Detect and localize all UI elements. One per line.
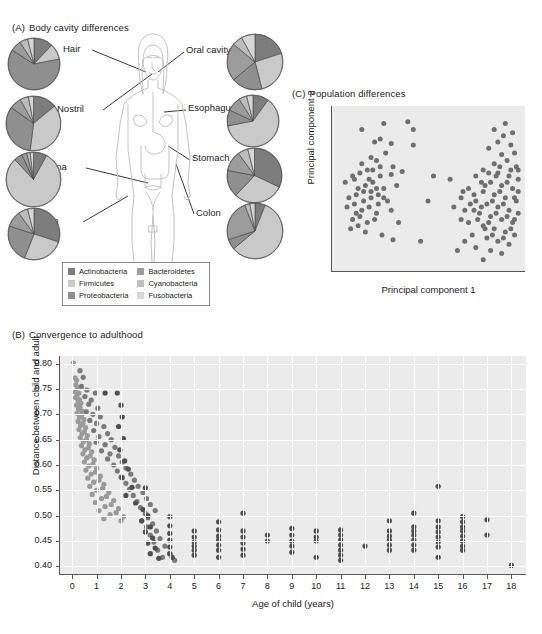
legend-label-fusobacteria: Fusobacteria — [148, 290, 192, 301]
x-axis-tick-label: 12 — [356, 581, 374, 591]
x-axis-tick-label: 16 — [454, 581, 472, 591]
x-axis-tick — [145, 575, 146, 579]
legend-swatch-cyanobacteria — [137, 280, 144, 287]
x-axis-tick — [438, 575, 439, 579]
x-axis-tick — [292, 575, 293, 579]
x-axis-tick — [463, 575, 464, 579]
pie-chart-hair — [8, 38, 60, 90]
panel-b-title-text: Convergence to adulthood — [29, 329, 143, 340]
x-axis-tick — [365, 575, 366, 579]
grid-line-horizontal — [60, 389, 526, 390]
panel-c-y-axis — [331, 106, 332, 272]
x-axis-tick-label: 18 — [502, 581, 520, 591]
x-axis-tick — [414, 575, 415, 579]
legend-label-proteobacteria: Proteobacteria — [79, 290, 128, 301]
x-axis-tick — [121, 575, 122, 579]
panel-a-body-cavity: (A)Body cavity differences — [0, 0, 300, 320]
x-axis-tick-label: 7 — [234, 581, 252, 591]
pie-chart-colon — [227, 203, 283, 259]
x-axis-tick-label: 17 — [478, 581, 496, 591]
legend-item-actinobacteria: Actinobacteria — [68, 266, 128, 277]
legend-swatch-actinobacteria — [68, 268, 75, 275]
panel-c-plot-area — [332, 106, 525, 271]
x-axis-tick-label: 0 — [63, 581, 81, 591]
x-axis-tick-label: 2 — [112, 581, 130, 591]
site-label-hair: Hair — [63, 43, 80, 54]
y-axis-tick — [56, 414, 60, 415]
site-label-colon: Colon — [196, 207, 221, 218]
x-axis-tick — [511, 575, 512, 579]
y-axis-tick-label: 0.45 — [26, 535, 52, 545]
legend-swatch-bacteroidetes — [137, 268, 144, 275]
grid-line-horizontal — [60, 364, 526, 365]
site-label-stomach: Stomach — [192, 152, 230, 163]
x-axis-tick — [72, 575, 73, 579]
legend-column-right: Bacteroidetes Cyanobacteria Fusobacteria — [137, 266, 197, 301]
x-axis-tick-label: 1 — [88, 581, 106, 591]
site-label-nostril: Nostril — [57, 103, 84, 114]
legend-item-firmicutes: Firmicutes — [68, 278, 128, 289]
legend-swatch-fusobacteria — [137, 292, 144, 299]
pie-chart-nostril — [6, 96, 61, 151]
site-label-oral-cavity: Oral cavity — [186, 44, 231, 55]
legend-label-firmicutes: Firmicutes — [79, 278, 114, 289]
legend-label-actinobacteria: Actinobacteria — [79, 266, 127, 277]
pie-chart-esophagus — [227, 95, 279, 147]
y-axis-tick — [56, 566, 60, 567]
legend-item-proteobacteria: Proteobacteria — [68, 290, 128, 301]
panel-c-tag: (C) — [292, 88, 306, 99]
y-axis-tick — [56, 541, 60, 542]
legend-column-left: Actinobacteria Firmicutes Proteobacteria — [68, 266, 128, 301]
grid-line-horizontal — [60, 541, 526, 542]
pie-chart-skin — [8, 208, 60, 260]
x-axis-tick-label: 3 — [136, 581, 154, 591]
legend-swatch-firmicutes — [68, 280, 75, 287]
x-axis-tick — [316, 575, 317, 579]
grid-line-horizontal — [60, 566, 526, 567]
y-axis-tick — [56, 389, 60, 390]
legend-label-cyanobacteria: Cyanobacteria — [148, 278, 197, 289]
legend-item-fusobacteria: Fusobacteria — [137, 290, 197, 301]
x-axis-tick-label: 14 — [405, 581, 423, 591]
y-axis-tick — [56, 516, 60, 517]
y-axis-tick — [56, 465, 60, 466]
panel-b-convergence: (B)Convergence to adulthood 0.400.450.50… — [0, 320, 542, 634]
panel-c-y-axis-label: Principal component 2 — [305, 68, 316, 208]
x-axis-tick — [341, 575, 342, 579]
pie-chart-vagina — [6, 152, 61, 207]
panel-a-legend: Actinobacteria Firmicutes Proteobacteria… — [62, 262, 210, 306]
legend-item-cyanobacteria: Cyanobacteria — [137, 278, 197, 289]
legend-swatch-proteobacteria — [68, 292, 75, 299]
panel-c-x-axis — [331, 271, 525, 272]
x-axis-tick-label: 13 — [380, 581, 398, 591]
pie-chart-oral-cavity — [227, 34, 283, 90]
y-axis-tick — [56, 440, 60, 441]
panel-b-y-axis-label: Distance between child and adult — [30, 291, 41, 521]
x-axis-tick-label: 10 — [307, 581, 325, 591]
panel-b-x-axis-label: Age of child (years) — [60, 598, 526, 609]
x-axis-tick-label: 11 — [332, 581, 350, 591]
legend-label-bacteroidetes: Bacteroidetes — [148, 266, 194, 277]
x-axis-tick-label: 6 — [210, 581, 228, 591]
panel-c-x-axis-label: Principal component 1 — [332, 284, 525, 295]
grid-line-horizontal — [60, 465, 526, 466]
x-axis-tick — [219, 575, 220, 579]
x-axis-tick — [389, 575, 390, 579]
x-axis-tick-label: 5 — [185, 581, 203, 591]
human-body-illustration — [108, 30, 198, 262]
x-axis-tick-label: 15 — [429, 581, 447, 591]
x-axis-tick-label: 8 — [258, 581, 276, 591]
x-axis-tick — [267, 575, 268, 579]
grid-line-horizontal — [60, 516, 526, 517]
y-axis-tick — [56, 490, 60, 491]
x-axis-tick-label: 4 — [161, 581, 179, 591]
legend-item-bacteroidetes: Bacteroidetes — [137, 266, 197, 277]
x-axis-tick — [97, 575, 98, 579]
x-axis-tick — [243, 575, 244, 579]
panel-c-title-text: Population differences — [310, 88, 406, 99]
panel-c-population-differences: (C)Population differences Principal comp… — [292, 88, 542, 313]
pie-chart-stomach — [227, 148, 282, 203]
grid-line-horizontal — [60, 440, 526, 441]
grid-line-horizontal — [60, 414, 526, 415]
x-axis-tick — [194, 575, 195, 579]
